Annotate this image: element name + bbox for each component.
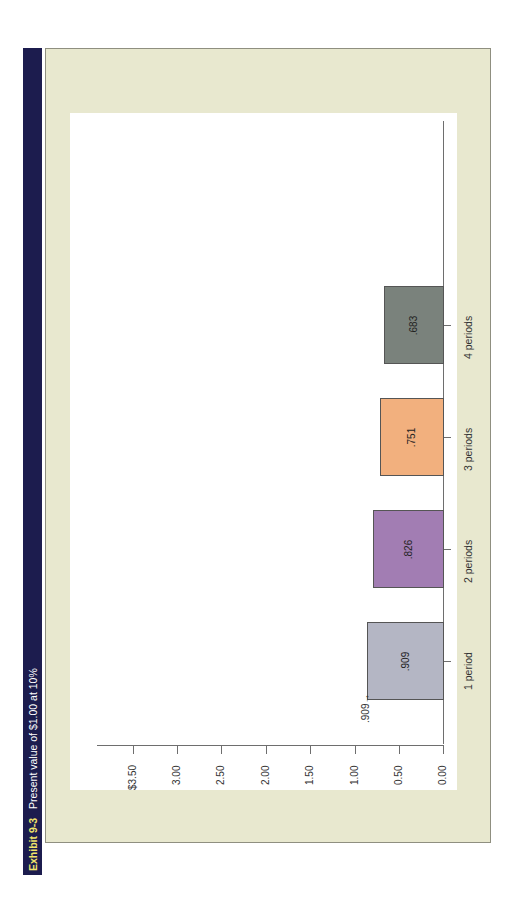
value-axis-tick: [399, 745, 400, 754]
value-axis-line: [97, 745, 444, 746]
value-axis-label: 0.00: [437, 766, 448, 785]
value-axis-tick: [266, 745, 267, 754]
value-axis-tick: [310, 745, 311, 754]
category-axis-tick: [444, 661, 451, 662]
bar-1-period: .909: [367, 622, 444, 700]
exhibit-header: Exhibit 9-3 Present value of $1.00 at 10…: [23, 48, 42, 875]
chart-title: Present value of $1.00 at 10%: [27, 668, 39, 809]
value-axis-tick: [177, 745, 178, 754]
exhibit-label: Exhibit 9-3: [27, 818, 39, 871]
bar-4-periods: .683: [384, 286, 444, 364]
bar-value-label: .683: [409, 315, 420, 334]
bar-3-periods: .751: [380, 398, 444, 476]
value-axis-label: 3.00: [171, 766, 182, 785]
value-axis-label: 1.00: [349, 766, 360, 785]
value-axis-label: $3.50: [127, 765, 138, 790]
category-label: 4 periods: [462, 316, 474, 359]
value-axis-tick: [221, 745, 222, 754]
bar-2-periods: .826: [373, 510, 444, 588]
bar-value-label: .826: [403, 539, 414, 558]
bar-value-label: .751: [407, 427, 418, 446]
value-axis-tick: [133, 745, 134, 754]
value-axis-label: 1.50: [304, 766, 315, 785]
category-axis-tick: [444, 437, 451, 438]
value-axis-label: 2.50: [215, 766, 226, 785]
value-axis-tick: [355, 745, 356, 754]
category-axis-tick: [444, 549, 451, 550]
value-marker-annotation: .909→: [360, 694, 371, 723]
category-label: 1 period: [462, 652, 474, 690]
bar-value-label: .909: [400, 651, 411, 670]
category-axis-tick: [444, 325, 451, 326]
value-axis-label: 2.00: [260, 766, 271, 785]
category-label: 3 periods: [462, 428, 474, 471]
value-axis-label: 0.50: [393, 766, 404, 785]
category-label: 2 periods: [462, 540, 474, 583]
value-axis-tick: [443, 745, 444, 754]
